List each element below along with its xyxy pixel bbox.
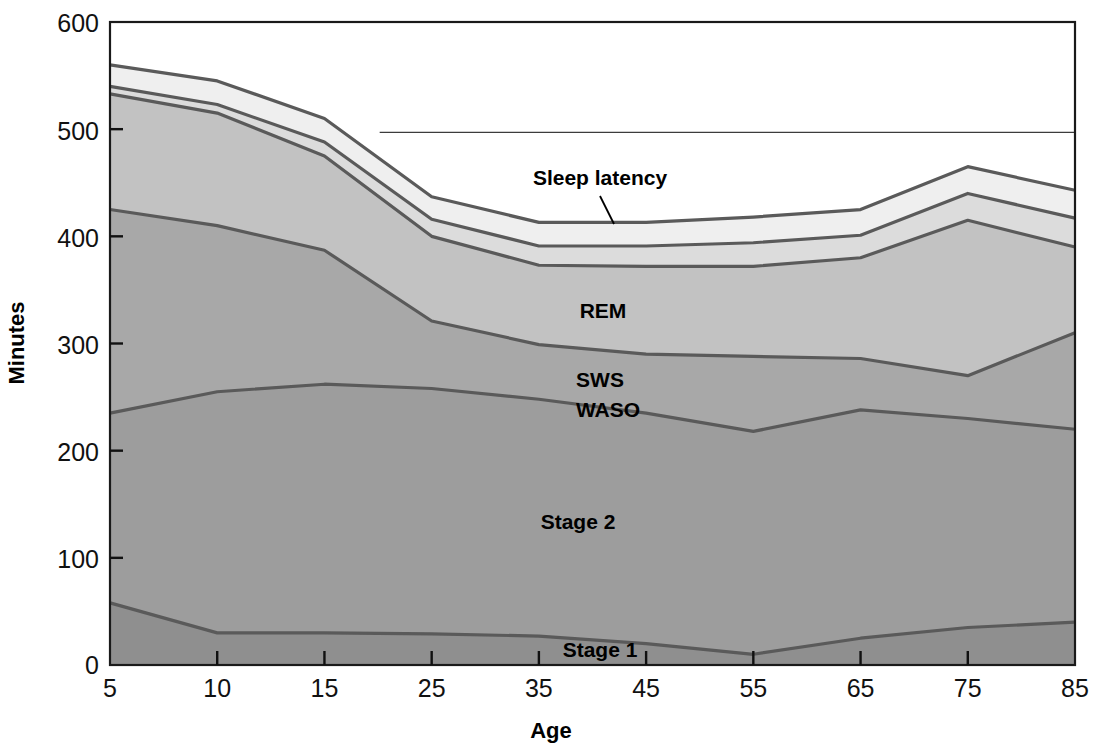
y-tick-label-0: 0: [85, 651, 99, 679]
series-label-stage2: Stage 2: [541, 510, 616, 533]
x-tick-label-5: 5: [103, 674, 117, 702]
chart-container: 600 500 400 300 200 100 0 51015253545556…: [0, 0, 1102, 752]
series-label-rem: REM: [580, 299, 627, 322]
series-label-stage1: Stage 1: [563, 638, 638, 661]
x-axis-title: Age: [530, 718, 572, 743]
y-tick-label-100: 100: [57, 545, 99, 573]
y-axis-title: Minutes: [4, 301, 29, 384]
y-tick-label-500: 500: [57, 117, 99, 145]
x-tick-label-15: 15: [311, 674, 339, 702]
series-label-waso: WASO: [576, 398, 640, 421]
x-tick-label-10: 10: [203, 674, 231, 702]
x-tick-label-45: 45: [632, 674, 660, 702]
stacked-area-chart: 600 500 400 300 200 100 0 51015253545556…: [0, 0, 1102, 752]
x-tick-label-25: 25: [418, 674, 446, 702]
x-tick-label-55: 55: [739, 674, 767, 702]
x-tick-label-65: 65: [847, 674, 875, 702]
series-label-sws: SWS: [576, 368, 624, 391]
x-tick-label-35: 35: [525, 674, 553, 702]
y-tick-label-200: 200: [57, 438, 99, 466]
y-tick-label-600: 600: [57, 9, 99, 37]
x-axis-tick-labels: 5101525354555657585: [103, 674, 1089, 702]
y-tick-label-300: 300: [57, 331, 99, 359]
y-tick-label-400: 400: [57, 224, 99, 252]
x-tick-label-85: 85: [1061, 674, 1089, 702]
x-tick-label-75: 75: [954, 674, 982, 702]
y-axis-tick-labels: 600 500 400 300 200 100 0: [57, 9, 99, 679]
series-label-sleep-latency: Sleep latency: [533, 166, 668, 189]
